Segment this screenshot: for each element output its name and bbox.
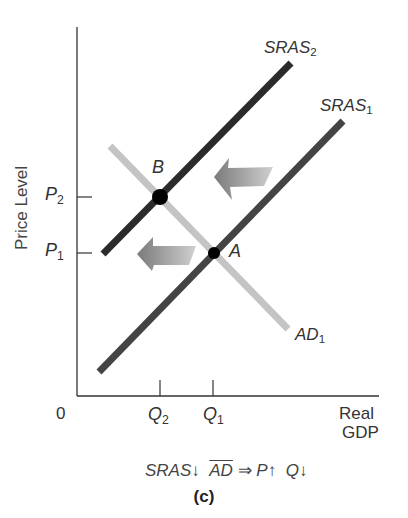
origin-label: 0: [56, 404, 65, 424]
point-a: [208, 247, 220, 259]
p2-label: P2: [45, 184, 64, 207]
shift-arrow-lower-icon: [137, 237, 196, 271]
sras1-label: SRAS1: [320, 96, 373, 116]
summary-formula: SRAS↓ AD ⇒ P↑ Q↓: [145, 460, 307, 481]
sras2-curve: [103, 63, 291, 254]
formula-q: Q: [286, 461, 299, 480]
down-arrow-icon: ↓: [191, 461, 200, 480]
point-b: [152, 189, 168, 205]
down-arrow-icon: ↓: [299, 461, 308, 480]
formula-sras: SRAS: [145, 461, 191, 480]
q2-label: Q2: [148, 404, 169, 427]
up-arrow-icon: ↑: [268, 461, 277, 480]
formula-ad: AD: [209, 461, 233, 480]
sras2-label: SRAS2: [264, 38, 317, 58]
formula-p: P: [256, 461, 267, 480]
point-b-label: B: [152, 157, 164, 178]
y-axis-label: Price Level: [12, 166, 32, 250]
ad1-label: AD1: [295, 325, 325, 345]
point-a-label: A: [229, 241, 241, 262]
x-axis-label-line2: GDP: [342, 423, 379, 443]
shift-arrow-upper-icon: [214, 158, 273, 200]
p1-label: P1: [45, 240, 64, 263]
x-axis-label-line1: Real: [339, 404, 374, 424]
q1-label: Q1: [203, 404, 224, 427]
implies-icon: ⇒: [238, 461, 252, 480]
figure-caption: (c): [194, 487, 215, 507]
